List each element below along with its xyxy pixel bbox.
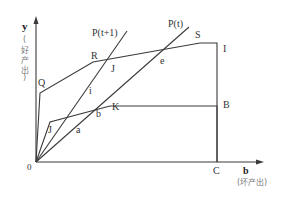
point-label-j-upper: J [111,63,115,74]
x-axis-label: b [243,165,249,176]
svg-text:好: 好 [21,45,29,55]
production-frontier-diagram: y ( 好 产 出 ) b (坏产出) 0 P(t+1) P(t) Q R J … [0,0,295,197]
point-label-r: R [91,50,98,61]
point-label-c: C [213,165,220,176]
ray-p-t [36,27,189,162]
point-label-e: e [160,55,165,66]
y-axis-arrow-icon [34,16,39,24]
origin-label: 0 [27,162,32,172]
ray-p-t1 [36,31,127,162]
axes [34,16,265,165]
point-label-i-upper: I [223,43,226,54]
frontier-t1 [36,43,217,162]
point-label-q: Q [38,77,46,88]
ray-label-p-t: P(t) [168,18,183,30]
frontier-t [36,106,217,162]
svg-text:): ) [23,73,26,82]
x-axis-sublabel: (坏产出) [237,177,267,187]
svg-text:(: ( [23,35,26,44]
point-label-j-lower: J [48,124,52,135]
y-axis-label: y [22,20,28,32]
point-label-b-point: b [96,108,101,119]
point-label-a: a [76,124,81,135]
point-label-k: K [112,101,120,112]
svg-text:产: 产 [21,55,29,65]
point-label-b-upper: B [223,99,230,110]
point-label-s: S [195,29,201,40]
y-axis-sublabel: ( 好 产 出 ) [21,35,29,82]
ray-label-p-t1: P(t+1) [92,27,118,39]
point-label-i: i [89,85,92,96]
x-axis-arrow-icon [256,160,264,165]
